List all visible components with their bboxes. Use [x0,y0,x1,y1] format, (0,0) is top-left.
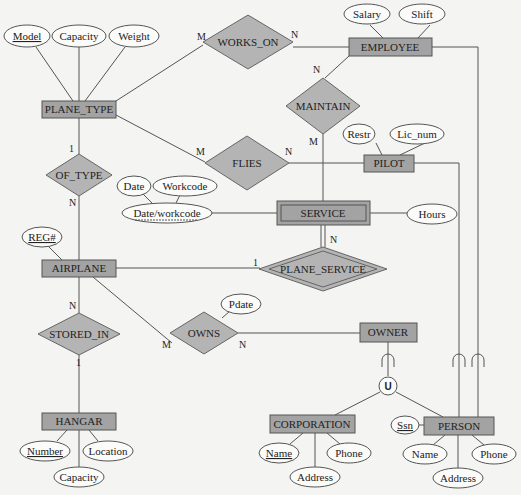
svg-text:Restr: Restr [347,128,371,140]
attribute-lic-num: Lic_num [390,124,444,144]
svg-text:M: M [309,136,318,147]
svg-text:PLANE_TYPE: PLANE_TYPE [45,103,114,115]
svg-text:EMPLOYEE: EMPLOYEE [361,41,420,53]
attribute-pdate: Pdate [221,294,261,314]
attribute-hangar-capacity: Capacity [54,467,104,487]
svg-text:Location: Location [88,445,128,457]
svg-text:PERSON: PERSON [438,420,480,432]
svg-text:U: U [384,381,391,392]
attribute-workcode: Workcode [153,176,217,196]
svg-text:HANGAR: HANGAR [55,415,103,427]
entity-owner: OWNER [360,323,417,342]
svg-text:Number: Number [27,445,63,457]
union-circle: U [379,377,397,395]
attribute-ssn: Ssn [391,416,419,434]
attribute-reg: REG# [22,227,62,247]
svg-text:SERVICE: SERVICE [301,207,346,219]
entity-plane-type: PLANE_TYPE [42,101,116,118]
relationship-plane-service: PLANE_SERVICE [259,247,387,291]
attribute-date-workcode: Date/workcode [122,203,212,223]
attribute-hangar-number: Number [20,441,70,461]
svg-text:Workcode: Workcode [163,180,208,192]
svg-text:N: N [291,29,298,40]
svg-text:Lic_num: Lic_num [397,128,437,140]
svg-text:Salary: Salary [353,8,382,20]
connector-lines [36,25,484,468]
svg-text:AIRPLANE: AIRPLANE [52,262,107,274]
svg-text:M: M [197,31,206,42]
svg-text:Model: Model [13,30,42,42]
svg-text:OWNER: OWNER [368,326,409,338]
attribute-salary: Salary [344,4,390,24]
svg-text:OWNS: OWNS [188,327,220,339]
svg-text:N: N [285,146,292,157]
attribute-corporation-address: Address [290,467,340,487]
attribute-restr: Restr [343,124,375,144]
svg-text:Name: Name [412,448,438,460]
relationship-works-on: WORKS_ON [203,15,293,69]
attribute-hangar-location: Location [83,441,133,461]
relationship-flies: FLIES [205,136,289,190]
svg-text:Capacity: Capacity [59,30,99,42]
svg-text:Name: Name [266,447,292,459]
svg-text:1: 1 [253,257,258,268]
relationship-stored-in: STORED_IN [38,313,120,355]
svg-text:PLANE_SERVICE: PLANE_SERVICE [280,263,366,275]
entity-corporation: CORPORATION [270,415,355,433]
svg-text:MAINTAIN: MAINTAIN [296,100,351,112]
svg-text:Pdate: Pdate [229,298,254,310]
attribute-corporation-name: Name [259,443,299,463]
svg-text:N: N [239,339,246,350]
attribute-person-name: Name [403,444,447,464]
svg-text:1: 1 [76,357,81,368]
attribute-hours: Hours [407,204,457,224]
entity-hangar: HANGAR [42,413,116,430]
svg-text:PILOT: PILOT [373,157,404,169]
svg-text:Capacity: Capacity [59,471,99,483]
svg-text:WORKS_ON: WORKS_ON [217,36,278,48]
svg-text:OF_TYPE: OF_TYPE [55,169,102,181]
entity-person: PERSON [424,417,494,435]
svg-text:Date: Date [124,180,145,192]
entity-pilot: PILOT [364,155,414,172]
attribute-person-phone: Phone [472,444,516,464]
svg-text:1: 1 [69,143,74,154]
svg-text:CORPORATION: CORPORATION [273,418,350,430]
svg-text:Hours: Hours [419,208,446,220]
subset-marks [382,354,484,367]
svg-text:Phone: Phone [480,448,508,460]
relationship-maintain: MAINTAIN [286,78,360,134]
attribute-weight: Weight [109,25,159,47]
svg-text:Date/workcode: Date/workcode [133,207,200,219]
svg-text:N: N [313,64,320,75]
relationship-owns: OWNS [170,312,238,354]
relationship-of-type: OF_TYPE [46,154,112,196]
svg-text:STORED_IN: STORED_IN [49,328,109,340]
svg-text:N: N [69,300,76,311]
svg-text:N: N [330,234,337,245]
er-diagram: Model Capacity Weight Salary Shift Restr… [0,0,521,495]
svg-text:Phone: Phone [335,447,363,459]
svg-text:N: N [69,197,76,208]
attribute-person-address: Address [433,468,483,488]
entity-employee: EMPLOYEE [349,38,432,56]
svg-text:Ssn: Ssn [397,419,413,431]
attribute-shift: Shift [399,4,445,24]
attribute-plane-capacity: Capacity [52,25,106,47]
entity-airplane: AIRPLANE [42,260,116,277]
svg-text:M: M [196,146,205,157]
svg-text:FLIES: FLIES [232,157,261,169]
svg-text:Weight: Weight [118,30,150,42]
svg-text:Address: Address [297,471,333,483]
attribute-date: Date [117,176,151,196]
entity-service: SERVICE [277,201,370,225]
svg-text:Address: Address [440,472,476,484]
svg-text:REG#: REG# [28,231,56,243]
svg-text:M: M [162,339,171,350]
attribute-model: Model [4,25,50,47]
attribute-corporation-phone: Phone [327,443,371,463]
svg-text:Shift: Shift [411,8,432,20]
